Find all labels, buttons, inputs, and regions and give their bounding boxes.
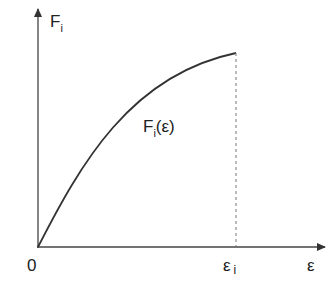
- curve-label: Fi(ε): [143, 117, 175, 139]
- force-curve: [38, 53, 236, 247]
- x-axis-label: ε: [307, 256, 315, 275]
- y-axis-label: Fi: [50, 12, 63, 34]
- force-strain-diagram: Fi Fi(ε) 0 εi ε: [0, 0, 335, 284]
- strain-marker-label: εi: [223, 256, 236, 277]
- origin-label: 0: [27, 256, 36, 275]
